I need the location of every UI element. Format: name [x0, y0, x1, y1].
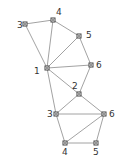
node-label-t6: 6	[96, 60, 102, 70]
edges-layer	[25, 20, 104, 143]
edge-t1-t6	[47, 65, 91, 68]
node-center-b4	[64, 142, 66, 144]
node-label-b2: 2	[72, 81, 78, 91]
edge-t5-t6	[79, 36, 91, 65]
node-label-b3: 3	[47, 109, 53, 119]
node-label-t1: 1	[34, 66, 40, 76]
node-center-t6	[90, 64, 92, 66]
edge-t1-b3	[47, 68, 56, 114]
node-center-b3	[55, 113, 57, 115]
node-label-t5: 5	[86, 30, 92, 40]
node-center-t5	[78, 35, 80, 37]
edge-b5-b6	[96, 114, 104, 143]
node-center-b5	[95, 142, 97, 144]
nodes-layer	[23, 18, 106, 145]
edge-b2-b6	[79, 94, 104, 114]
edge-b3-b4	[56, 114, 65, 143]
edge-t3-t4	[25, 20, 53, 24]
node-label-t3: 3	[17, 20, 23, 30]
node-label-b6: 6	[109, 109, 115, 119]
edge-b2-b3	[56, 94, 79, 114]
node-label-b4: 4	[62, 147, 68, 157]
node-label-b5: 5	[93, 147, 99, 157]
graph-diagram: 1345623645	[0, 0, 118, 164]
edge-t1-t4	[47, 20, 53, 68]
edge-t6-b2	[79, 65, 91, 94]
edge-t1-t5	[47, 36, 79, 68]
edge-b4-b6	[65, 114, 104, 143]
node-center-t1	[46, 67, 48, 69]
node-center-b6	[103, 113, 105, 115]
edge-t4-t5	[53, 20, 79, 36]
node-label-t4: 4	[56, 7, 62, 17]
node-center-t4	[52, 19, 54, 21]
node-center-t3	[24, 23, 26, 25]
labels-layer: 1345623645	[17, 7, 115, 157]
node-center-b2	[78, 93, 80, 95]
edge-t1-t3	[25, 24, 47, 68]
